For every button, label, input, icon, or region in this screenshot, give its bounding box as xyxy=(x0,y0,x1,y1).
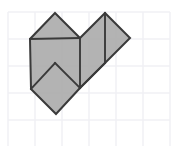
geometry-figure-svg xyxy=(0,0,186,146)
figure-container xyxy=(0,0,186,146)
interior-edge-diag-center-left xyxy=(30,38,80,39)
